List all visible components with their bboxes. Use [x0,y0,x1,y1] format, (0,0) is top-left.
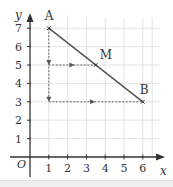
svg-text:4: 4 [15,77,22,90]
svg-text:6: 6 [139,162,146,175]
svg-text:5: 5 [121,162,128,175]
point-label-a: A [44,9,54,23]
y-axis-label: y [14,8,22,22]
tick-labels: 1234561234567 [15,22,146,175]
coordinate-plot: 1234561234567 AMB x y O [0,0,173,181]
svg-text:6: 6 [15,41,22,54]
point-markers: AMB [44,9,149,103]
point-label-m: M [100,48,112,62]
svg-text:2: 2 [15,114,22,127]
point-label-b: B [140,83,149,97]
svg-text:7: 7 [15,22,22,35]
origin-label: O [17,158,26,171]
x-axis-label: x [160,164,167,178]
svg-text:1: 1 [15,133,22,146]
svg-text:3: 3 [83,162,90,175]
svg-text:1: 1 [45,162,52,175]
svg-text:2: 2 [64,162,71,175]
svg-text:3: 3 [15,96,22,109]
svg-text:4: 4 [102,162,109,175]
bottom-band [0,180,173,187]
svg-text:5: 5 [15,59,22,72]
